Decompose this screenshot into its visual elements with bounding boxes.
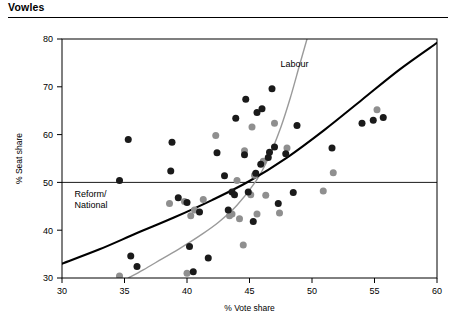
data-point: [212, 132, 219, 139]
data-point: [271, 144, 278, 151]
data-point: [186, 243, 193, 250]
data-point: [236, 215, 243, 222]
x-axis-title: % Vote share: [224, 303, 275, 313]
x-tick-label: 45: [244, 286, 254, 296]
data-point: [221, 172, 228, 179]
chart-canvas: 30405060708030354045505560 LabourReform/…: [0, 20, 456, 318]
fit-curve-reform-national: [62, 43, 437, 264]
header-divider: [8, 17, 448, 18]
x-tick-label: 35: [119, 286, 129, 296]
data-point: [370, 117, 377, 124]
data-point: [275, 200, 282, 207]
fitted-curve-layer: [62, 39, 437, 278]
figure-page: Vowles 30405060708030354045505560 Labour…: [0, 0, 456, 318]
data-point: [134, 263, 141, 270]
data-point: [125, 136, 132, 143]
x-tick-label: 50: [307, 286, 317, 296]
ticks-layer: 30405060708030354045505560: [43, 34, 442, 296]
reform-national-label: Reform/National: [75, 189, 108, 210]
x-tick-label: 40: [182, 286, 192, 296]
data-point: [359, 120, 366, 127]
labour-label: Labour: [280, 59, 308, 69]
annotation-layer: LabourReform/National: [75, 59, 309, 210]
data-point: [241, 151, 248, 158]
data-point: [330, 169, 337, 176]
data-point: [205, 254, 212, 261]
x-tick-label: 55: [369, 286, 379, 296]
data-point: [200, 196, 207, 203]
fit-curve-labour: [128, 39, 307, 278]
data-point: [127, 253, 134, 260]
data-point: [252, 170, 259, 177]
data-point: [320, 188, 327, 195]
data-point: [374, 106, 381, 113]
y-tick-label: 30: [43, 273, 53, 283]
data-point: [242, 96, 249, 103]
data-point: [294, 122, 301, 129]
data-point: [329, 144, 336, 151]
data-point: [167, 167, 174, 174]
data-point: [380, 114, 387, 121]
y-tick-label: 70: [43, 82, 53, 92]
data-point: [234, 177, 241, 184]
page-title: Vowles: [8, 1, 45, 13]
data-point: [240, 242, 247, 249]
data-point: [262, 192, 269, 199]
data-point: [225, 207, 232, 214]
data-point: [259, 105, 266, 112]
x-tick-label: 30: [57, 286, 67, 296]
data-point: [254, 210, 261, 217]
labour-label-line: Labour: [280, 59, 308, 69]
data-point: [282, 150, 289, 157]
data-point: [214, 149, 221, 156]
data-point: [284, 144, 291, 151]
data-point: [169, 139, 176, 146]
data-point: [190, 268, 197, 275]
data-point: [232, 115, 239, 122]
y-tick-label: 50: [43, 178, 53, 188]
y-tick-label: 80: [43, 34, 53, 44]
data-point: [257, 161, 264, 168]
data-point: [184, 199, 191, 206]
data-point: [116, 273, 123, 280]
data-point: [196, 209, 203, 216]
data-point: [187, 212, 194, 219]
y-tick-label: 60: [43, 130, 53, 140]
data-point: [290, 189, 297, 196]
data-point: [269, 85, 276, 92]
reform-national-label-line: National: [75, 200, 108, 210]
data-point: [184, 270, 191, 277]
axis-label-layer: % Vote share% Seat share: [14, 133, 275, 313]
y-tick-label: 40: [43, 226, 53, 236]
data-point: [271, 120, 278, 127]
data-point: [249, 123, 256, 130]
data-point: [231, 191, 238, 198]
data-point: [250, 218, 257, 225]
data-point: [276, 209, 283, 216]
data-point: [266, 149, 273, 156]
scatter-chart: 30405060708030354045505560 LabourReform/…: [0, 20, 456, 318]
data-point: [166, 200, 173, 207]
data-point: [245, 188, 252, 195]
data-point: [116, 177, 123, 184]
x-tick-label: 60: [432, 286, 442, 296]
y-axis-title: % Seat share: [14, 133, 24, 184]
data-point: [175, 194, 182, 201]
reform-national-label-line: Reform/: [75, 189, 108, 199]
